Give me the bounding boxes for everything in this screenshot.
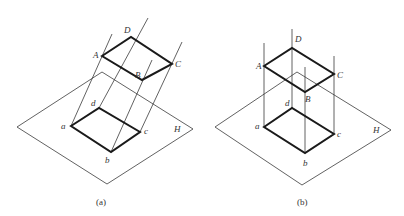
label-A-a: A — [92, 50, 99, 60]
label-D-b: D — [294, 34, 302, 44]
label-a-b: a — [255, 121, 260, 131]
label-H-b: H — [372, 125, 380, 135]
label-H-a: H — [173, 124, 181, 134]
quad-abcd-lower-a — [71, 108, 140, 152]
label-A-b: A — [255, 61, 262, 71]
quad-abcd-upper-b — [264, 48, 334, 92]
label-d-a: d — [91, 98, 96, 108]
plane-h-a — [17, 72, 193, 184]
label-B-b: B — [305, 94, 311, 104]
caption-b: (b) — [297, 197, 308, 207]
label-c-a: c — [144, 126, 148, 136]
label-C-a: C — [175, 59, 182, 69]
label-c-b: c — [337, 129, 341, 139]
label-b-b: b — [303, 158, 308, 168]
quad-abcd-lower-b — [264, 108, 334, 153]
figure-b: A D C B a d c b H (b) — [215, 29, 391, 207]
plane-h-b — [215, 72, 391, 185]
label-B-a: B — [135, 70, 141, 80]
label-a-a: a — [61, 121, 66, 131]
diagram-canvas: A D C B a d c b H (a) A D C B a d c b H … — [0, 0, 404, 216]
label-C-b: C — [337, 70, 344, 80]
label-d-b: d — [285, 98, 290, 108]
caption-a: (a) — [96, 197, 106, 207]
label-D-a: D — [123, 25, 131, 35]
figure-a: A D C B a d c b H (a) — [17, 18, 193, 207]
label-b-a: b — [105, 155, 110, 165]
